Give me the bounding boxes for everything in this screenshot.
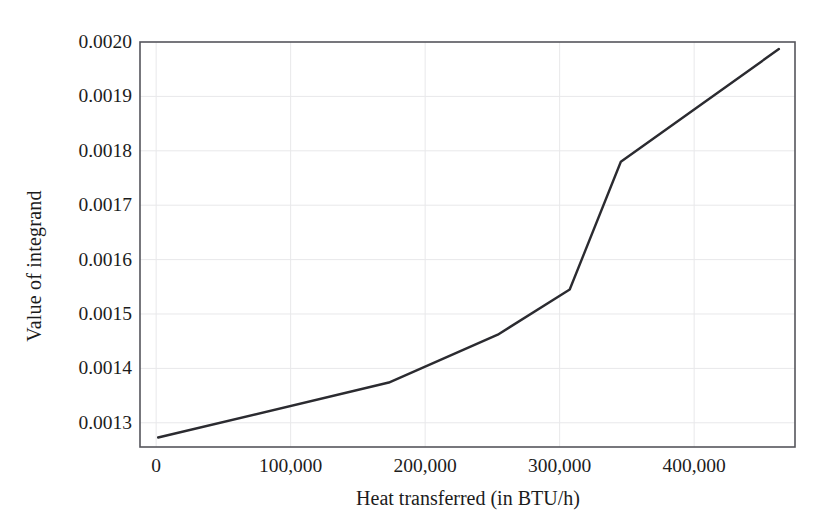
plot-frame-rect: [140, 42, 795, 447]
plot-area: [0, 0, 836, 532]
chart-figure: Value of integrand 0.00130.00140.00150.0…: [0, 0, 836, 532]
data-series-group: [158, 49, 779, 437]
data-line-series-0: [158, 49, 779, 437]
gridlines: [140, 42, 795, 447]
plot-frame: [140, 42, 795, 447]
